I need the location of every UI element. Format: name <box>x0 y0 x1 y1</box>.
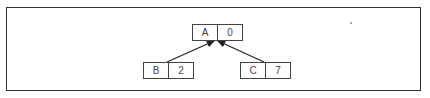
node-c: C 7 <box>240 62 291 79</box>
node-c-label: C <box>241 63 265 78</box>
node-a-label: A <box>193 25 217 40</box>
node-a-value: 0 <box>217 25 242 40</box>
node-c-value: 7 <box>265 63 290 78</box>
edge-b-to-a <box>167 41 214 62</box>
edge-c-to-a <box>218 41 264 62</box>
node-b-value: 2 <box>168 63 193 78</box>
edges <box>0 0 430 98</box>
node-a: A 0 <box>192 24 243 41</box>
speck-mark <box>350 22 352 24</box>
node-b-label: B <box>144 63 168 78</box>
node-b: B 2 <box>143 62 194 79</box>
